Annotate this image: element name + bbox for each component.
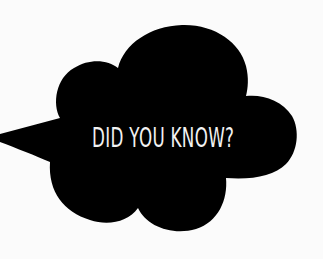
did-you-know-heading: DID YOU KNOW?	[92, 121, 187, 155]
did-you-know-graphic: DID YOU KNOW?	[0, 0, 323, 259]
